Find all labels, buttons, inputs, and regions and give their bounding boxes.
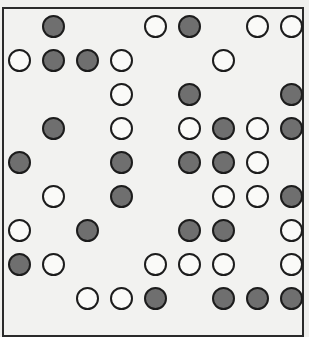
board-cell-r2-c5[interactable] (172, 77, 206, 111)
board-cell-r0-c6[interactable] (206, 9, 240, 43)
board-cell-r2-c6[interactable] (206, 77, 240, 111)
board-cell-r3-c3[interactable] (104, 111, 138, 145)
board-cell-r7-c3[interactable] (104, 247, 138, 281)
board-cell-r2-c0[interactable] (2, 77, 36, 111)
board-cell-r7-c7[interactable] (240, 247, 274, 281)
dark-circle-icon (280, 287, 303, 310)
board-cell-r6-c3[interactable] (104, 213, 138, 247)
board-cell-r6-c0[interactable] (2, 213, 36, 247)
board-cell-r8-c5[interactable] (172, 281, 206, 315)
board-cell-r1-c7[interactable] (240, 43, 274, 77)
board-cell-r0-c2[interactable] (70, 9, 104, 43)
board-cell-r2-c1[interactable] (36, 77, 70, 111)
board-cell-r2-c8[interactable] (274, 77, 308, 111)
white-circle-icon (280, 15, 303, 38)
dark-circle-icon (42, 15, 65, 38)
board-cell-r0-c4[interactable] (138, 9, 172, 43)
board-cell-r4-c0[interactable] (2, 145, 36, 179)
dark-circle-icon (8, 151, 31, 174)
board-cell-r7-c5[interactable] (172, 247, 206, 281)
dark-circle-icon (212, 287, 235, 310)
board-cell-r5-c2[interactable] (70, 179, 104, 213)
board-cell-r8-c7[interactable] (240, 281, 274, 315)
white-circle-icon (42, 253, 65, 276)
board-cell-r5-c6[interactable] (206, 179, 240, 213)
board-cell-r3-c7[interactable] (240, 111, 274, 145)
white-circle-icon (42, 185, 65, 208)
white-circle-icon (144, 253, 167, 276)
dark-circle-icon (178, 15, 201, 38)
board-cell-r7-c4[interactable] (138, 247, 172, 281)
board-cell-r8-c0[interactable] (2, 281, 36, 315)
board-cell-r3-c6[interactable] (206, 111, 240, 145)
board-cell-r4-c1[interactable] (36, 145, 70, 179)
board-cell-r1-c6[interactable] (206, 43, 240, 77)
board-cell-r6-c8[interactable] (274, 213, 308, 247)
board-cell-r4-c7[interactable] (240, 145, 274, 179)
board-cell-r6-c6[interactable] (206, 213, 240, 247)
white-circle-icon (110, 287, 133, 310)
game-board (2, 7, 304, 337)
board-cell-r2-c2[interactable] (70, 77, 104, 111)
board-cell-r3-c1[interactable] (36, 111, 70, 145)
board-cell-r1-c0[interactable] (2, 43, 36, 77)
board-cell-r3-c5[interactable] (172, 111, 206, 145)
board-cell-r7-c2[interactable] (70, 247, 104, 281)
board-cell-r4-c2[interactable] (70, 145, 104, 179)
board-cell-r7-c0[interactable] (2, 247, 36, 281)
board-cell-r1-c5[interactable] (172, 43, 206, 77)
dark-circle-icon (110, 185, 133, 208)
board-cell-r3-c8[interactable] (274, 111, 308, 145)
board-cell-r6-c4[interactable] (138, 213, 172, 247)
dark-circle-icon (280, 185, 303, 208)
board-cell-r5-c4[interactable] (138, 179, 172, 213)
board-cell-r4-c3[interactable] (104, 145, 138, 179)
board-cell-r4-c4[interactable] (138, 145, 172, 179)
board-cell-r6-c1[interactable] (36, 213, 70, 247)
board-cell-r5-c3[interactable] (104, 179, 138, 213)
board-cell-r3-c2[interactable] (70, 111, 104, 145)
dark-circle-icon (8, 253, 31, 276)
white-circle-icon (246, 185, 269, 208)
dark-circle-icon (246, 287, 269, 310)
board-cell-r6-c5[interactable] (172, 213, 206, 247)
board-cell-r8-c8[interactable] (274, 281, 308, 315)
board-cell-r0-c1[interactable] (36, 9, 70, 43)
board-cell-r8-c3[interactable] (104, 281, 138, 315)
board-cell-r1-c8[interactable] (274, 43, 308, 77)
board-cell-r4-c5[interactable] (172, 145, 206, 179)
board-cell-r3-c0[interactable] (2, 111, 36, 145)
board-cell-r0-c0[interactable] (2, 9, 36, 43)
board-cell-r0-c5[interactable] (172, 9, 206, 43)
board-cell-r1-c1[interactable] (36, 43, 70, 77)
board-cell-r2-c7[interactable] (240, 77, 274, 111)
board-cell-r1-c3[interactable] (104, 43, 138, 77)
board-cell-r0-c8[interactable] (274, 9, 308, 43)
board-cell-r5-c1[interactable] (36, 179, 70, 213)
board-cell-r5-c8[interactable] (274, 179, 308, 213)
board-cell-r8-c6[interactable] (206, 281, 240, 315)
board-cell-r7-c6[interactable] (206, 247, 240, 281)
board-cell-r4-c8[interactable] (274, 145, 308, 179)
board-cell-r4-c6[interactable] (206, 145, 240, 179)
board-cell-r2-c4[interactable] (138, 77, 172, 111)
board-cell-r2-c3[interactable] (104, 77, 138, 111)
board-cell-r8-c4[interactable] (138, 281, 172, 315)
dark-circle-icon (42, 49, 65, 72)
white-circle-icon (178, 253, 201, 276)
board-cell-r0-c3[interactable] (104, 9, 138, 43)
dark-circle-icon (110, 151, 133, 174)
board-cell-r1-c4[interactable] (138, 43, 172, 77)
board-cell-r6-c2[interactable] (70, 213, 104, 247)
board-cell-r0-c7[interactable] (240, 9, 274, 43)
board-cell-r1-c2[interactable] (70, 43, 104, 77)
board-cell-r5-c0[interactable] (2, 179, 36, 213)
board-cell-r8-c2[interactable] (70, 281, 104, 315)
board-cell-r5-c7[interactable] (240, 179, 274, 213)
board-cell-r6-c7[interactable] (240, 213, 274, 247)
board-cell-r7-c8[interactable] (274, 247, 308, 281)
board-cell-r5-c5[interactable] (172, 179, 206, 213)
board-cell-r3-c4[interactable] (138, 111, 172, 145)
board-cell-r8-c1[interactable] (36, 281, 70, 315)
board-cell-r7-c1[interactable] (36, 247, 70, 281)
